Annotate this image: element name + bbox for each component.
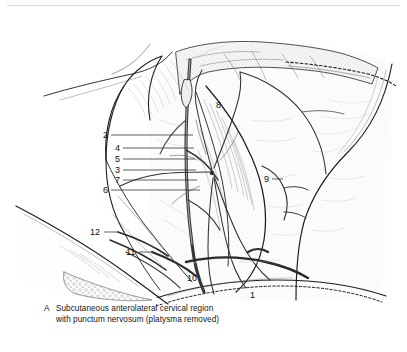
panel-letter: A bbox=[44, 303, 50, 314]
label-8: 8 bbox=[216, 101, 221, 110]
label-11: 11 bbox=[126, 248, 135, 257]
label-3: 3 bbox=[115, 166, 120, 175]
label-12: 12 bbox=[90, 228, 100, 237]
label-5: 5 bbox=[115, 155, 120, 164]
label-2: 2 bbox=[103, 131, 108, 140]
label-4: 4 bbox=[115, 144, 120, 153]
label-10: 10 bbox=[187, 274, 197, 283]
figure-caption: A Subcutaneous anterolateral cervical re… bbox=[44, 303, 344, 326]
label-1: 1 bbox=[250, 291, 255, 300]
caption-line-2: with punctum nervosum (platysma removed) bbox=[56, 314, 344, 325]
label-9: 9 bbox=[264, 175, 269, 184]
illustration-ink bbox=[16, 41, 396, 306]
label-7: 7 bbox=[115, 176, 120, 185]
caption-line-1: Subcutaneous anterolateral cervical regi… bbox=[56, 303, 344, 314]
anatomical-illustration bbox=[0, 0, 407, 352]
anatomy-figure: 123456789101112 A Subcutaneous anterolat… bbox=[0, 0, 407, 352]
label-6: 6 bbox=[103, 186, 108, 195]
